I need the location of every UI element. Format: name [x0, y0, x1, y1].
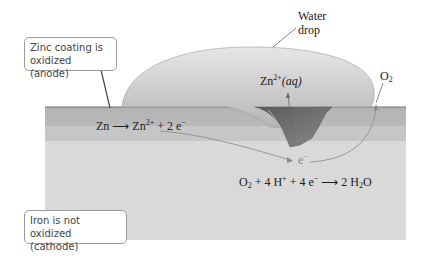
corrosion-diagram: Zinc coating is oxidized (anode) Iron is…: [0, 0, 428, 259]
cathode-callout-line1: Iron is not oxidized: [30, 214, 121, 240]
zn-aq-label: Zn2+(aq): [260, 74, 302, 89]
cathode-callout-line2: (cathode): [30, 240, 121, 253]
cathode-half-reaction: O2 + 4 H+ + 4 e− ⟶ 2 H2O: [239, 175, 372, 190]
reaction-arrow: ⟶: [321, 175, 338, 189]
anode-callout-line1: Zinc coating is: [30, 41, 111, 54]
electron-label: e−: [298, 153, 308, 168]
o2-label: O2: [380, 69, 393, 84]
anode-half-reaction: Zn ⟶ Zn2+ + 2 e−: [96, 119, 186, 134]
anode-callout: Zinc coating is oxidized (anode): [24, 37, 117, 71]
reaction-arrow: ⟶: [112, 119, 129, 133]
anode-callout-line2: oxidized (anode): [30, 54, 111, 80]
water-drop-label: Water drop: [298, 9, 326, 37]
water-drop-leader-line: [273, 28, 296, 47]
o2-leader-line: [376, 83, 383, 103]
cathode-callout: Iron is not oxidized (cathode): [24, 210, 127, 244]
